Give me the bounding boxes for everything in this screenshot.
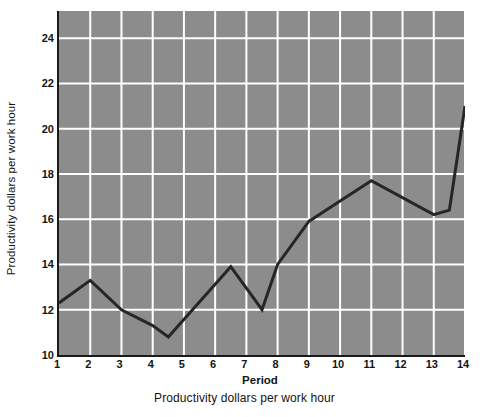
x-axis-caption: Productivity dollars per work hour	[0, 391, 489, 405]
y-tick-label: 24	[22, 32, 54, 44]
y-tick-label: 18	[22, 168, 54, 180]
x-tick-label: 4	[136, 358, 166, 370]
horizontal-gridlines	[59, 38, 465, 310]
x-tick-label: 1	[42, 358, 72, 370]
line-chart-figure: Productivity dollars per work hour 10121…	[0, 0, 489, 417]
y-tick-label: 16	[22, 213, 54, 225]
y-axis-tick-labels: 1012141618202224	[22, 11, 54, 355]
y-axis-title: Productivity dollars per work hour	[0, 11, 22, 366]
x-tick-label: 9	[292, 358, 322, 370]
x-tick-label: 10	[323, 358, 353, 370]
x-tick-label: 13	[417, 358, 447, 370]
y-tick-label: 12	[22, 304, 54, 316]
x-tick-label: 6	[198, 358, 228, 370]
x-tick-label: 7	[229, 358, 259, 370]
x-tick-label: 12	[386, 358, 416, 370]
y-tick-label: 20	[22, 123, 54, 135]
y-tick-label: 22	[22, 77, 54, 89]
x-tick-label: 14	[448, 358, 478, 370]
x-tick-label: 8	[261, 358, 291, 370]
y-tick-label: 14	[22, 258, 54, 270]
x-tick-label: 3	[104, 358, 134, 370]
plot-area	[57, 11, 465, 357]
vertical-gridlines	[90, 11, 465, 355]
x-tick-label: 5	[167, 358, 197, 370]
x-tick-label: 11	[354, 358, 384, 370]
x-tick-label: 2	[73, 358, 103, 370]
plot-svg	[59, 11, 465, 355]
data-series-line	[59, 106, 465, 337]
x-axis-tick-labels: 1234567891011121314	[57, 358, 463, 374]
x-axis-title: Period	[57, 374, 463, 386]
